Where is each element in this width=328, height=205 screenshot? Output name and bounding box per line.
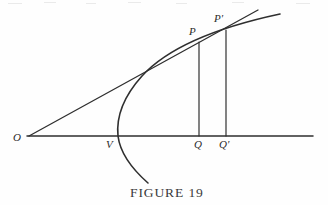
scan-artifact-mark	[8, 3, 22, 4]
scan-artifact-mark	[86, 3, 96, 4]
point-label-p: P	[189, 26, 196, 37]
point-label-vertex: V	[106, 139, 113, 150]
point-label-p-prime: P′	[214, 13, 223, 24]
figure-19-container: O V P P′ Q Q′ FIGURE 19	[0, 0, 328, 205]
point-label-q-prime: Q′	[219, 139, 229, 150]
scan-artifact-mark	[44, 2, 56, 3]
figure-19-drawing	[0, 0, 328, 205]
scan-artifact-mark	[176, 3, 187, 4]
point-label-origin: O	[13, 132, 21, 143]
point-label-q: Q	[194, 139, 202, 150]
figure-caption: FIGURE 19	[130, 185, 204, 201]
scan-artifact-mark	[296, 3, 310, 4]
secant-line-through-p-and-p-prime	[29, 10, 258, 136]
scan-artifact-mark	[128, 2, 141, 3]
scan-artifact-mark	[232, 2, 244, 3]
